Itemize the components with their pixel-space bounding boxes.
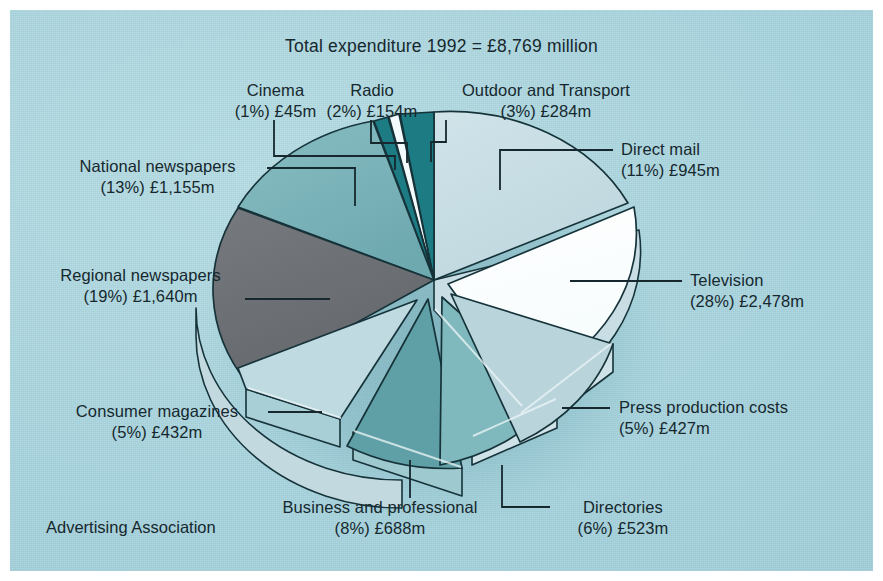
label-radio-name: Radio xyxy=(350,81,394,99)
label-directories: Directories (6%) £523m xyxy=(538,497,708,539)
label-radio-value: (2%) £154m xyxy=(307,101,437,122)
label-regional: Regional newspapers (19%) £1,640m xyxy=(38,265,243,307)
label-direct-mail-value: (11%) £945m xyxy=(621,160,720,181)
label-radio: Radio (2%) £154m xyxy=(307,80,437,122)
label-outdoor: Outdoor and Transport (3%) £284m xyxy=(426,80,666,122)
label-television-value: (28%) £2,478m xyxy=(690,291,804,312)
label-direct-mail-name: Direct mail xyxy=(621,140,700,158)
label-consumer-value: (5%) £432m xyxy=(52,422,262,443)
label-regional-value: (19%) £1,640m xyxy=(38,286,243,307)
label-press-name: Press production costs xyxy=(619,398,788,416)
label-directories-value: (6%) £523m xyxy=(538,518,708,539)
source-credit: Advertising Association xyxy=(46,518,216,537)
label-regional-name: Regional newspapers xyxy=(60,266,221,284)
label-outdoor-value: (3%) £284m xyxy=(426,101,666,122)
label-television-name: Television xyxy=(690,271,763,289)
label-directories-name: Directories xyxy=(583,498,663,516)
label-national: National newspapers (13%) £1,155m xyxy=(50,156,265,198)
label-consumer-name: Consumer magazines xyxy=(76,402,238,420)
label-business: Business and professional (8%) £688m xyxy=(250,497,510,539)
label-press-value: (5%) £427m xyxy=(619,418,788,439)
label-national-value: (13%) £1,155m xyxy=(50,177,265,198)
label-press: Press production costs (5%) £427m xyxy=(619,397,788,439)
chart-title: Total expenditure 1992 = £8,769 million xyxy=(10,36,873,57)
chart-screenshot: Total expenditure 1992 = £8,769 million xyxy=(0,0,883,581)
chart-plate: Total expenditure 1992 = £8,769 million xyxy=(10,10,873,571)
label-cinema-name: Cinema xyxy=(247,81,304,99)
label-television: Television (28%) £2,478m xyxy=(690,270,804,312)
label-consumer: Consumer magazines (5%) £432m xyxy=(52,401,262,443)
label-business-name: Business and professional xyxy=(282,498,477,516)
label-national-name: National newspapers xyxy=(80,157,236,175)
label-business-value: (8%) £688m xyxy=(250,518,510,539)
label-direct-mail: Direct mail (11%) £945m xyxy=(621,139,720,181)
label-outdoor-name: Outdoor and Transport xyxy=(462,81,630,99)
